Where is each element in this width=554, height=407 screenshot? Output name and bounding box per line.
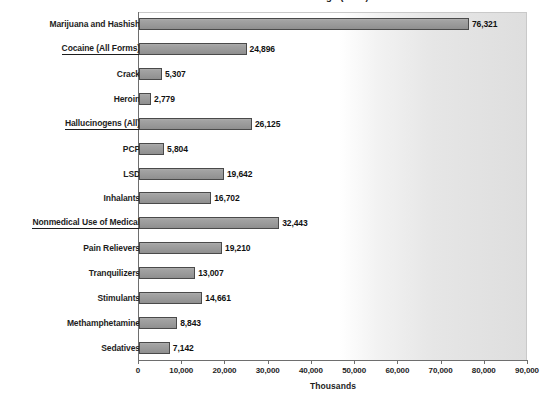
bar-value-label: 32,443	[282, 218, 307, 228]
bar-container: 7,142	[139, 342, 194, 354]
bar	[139, 143, 164, 155]
category-label: Nonmedical Use of Medical	[32, 217, 140, 229]
category-label: Pain Relievers	[83, 243, 140, 253]
bar-row: Crack5,307	[0, 62, 554, 87]
bar-value-label: 13,007	[198, 268, 223, 278]
bar-row: Methamphetamine8,843	[0, 310, 554, 335]
bar-container: 24,896	[139, 43, 275, 55]
x-axis-tick-label: 10,000	[169, 366, 193, 375]
x-axis-tick-label: 20,000	[213, 366, 237, 375]
bar-row: Pain Relievers19,210	[0, 236, 554, 261]
bar	[139, 267, 195, 279]
bar	[139, 118, 252, 130]
bar	[139, 18, 469, 30]
bar-value-label: 5,804	[167, 144, 188, 154]
bar-container: 32,443	[139, 217, 308, 229]
bar-row: Inhalants16,702	[0, 186, 554, 211]
category-label: Cocaine (All Forms)	[62, 43, 140, 55]
x-axis-tick	[527, 361, 528, 364]
bar-value-label: 26,125	[255, 119, 280, 129]
bar-value-label: 14,661	[205, 293, 230, 303]
category-label: Crack	[117, 69, 140, 79]
x-axis-tick	[224, 361, 225, 364]
bar-value-label: 16,702	[214, 193, 239, 203]
category-label: LSD	[123, 169, 140, 179]
bar-row: Cocaine (All Forms)24,896	[0, 37, 554, 62]
category-label: Methamphetamine	[67, 318, 140, 328]
bar-value-label: 5,307	[165, 69, 186, 79]
x-axis-tick-label: 30,000	[256, 366, 280, 375]
bar-container: 16,702	[139, 192, 240, 204]
x-axis-tick-label: 80,000	[472, 366, 496, 375]
bar-container: 26,125	[139, 118, 280, 130]
x-axis-tick-label: 40,000	[299, 366, 323, 375]
x-axis-tick-label: 0	[136, 366, 140, 375]
bar-row: Marijuana and Hashish76,321	[0, 12, 554, 37]
x-axis-tick	[311, 361, 312, 364]
bar-value-label: 19,642	[227, 169, 252, 179]
category-label: Marijuana and Hashish	[50, 19, 140, 29]
x-axis-tick-labels: 010,00020,00030,00040,00050,00060,00070,…	[138, 366, 528, 378]
category-label: Tranquilizers	[89, 268, 140, 278]
x-axis-tick	[484, 361, 485, 364]
x-axis-tick	[441, 361, 442, 364]
category-label: Stimulants	[98, 293, 140, 303]
x-axis-tick	[354, 361, 355, 364]
bar	[139, 317, 177, 329]
x-axis-ticks	[138, 361, 528, 365]
bar-row: LSD19,642	[0, 161, 554, 186]
bar-value-label: 76,321	[472, 19, 497, 29]
category-label: PCP	[123, 144, 140, 154]
bar-row: Hallucinogens (All)26,125	[0, 111, 554, 136]
bar	[139, 217, 279, 229]
bar-row: Tranquilizers13,007	[0, 261, 554, 286]
bar-rows: Marijuana and Hashish76,321Cocaine (All …	[0, 12, 554, 360]
bar	[139, 168, 224, 180]
bar-container: 19,642	[139, 168, 252, 180]
bar-value-label: 8,843	[180, 318, 201, 328]
x-axis-tick	[138, 361, 139, 364]
x-axis-tick-label: 70,000	[429, 366, 453, 375]
x-axis-tick-label: 60,000	[385, 366, 409, 375]
bar-container: 19,210	[139, 242, 250, 254]
bar	[139, 93, 151, 105]
category-label: Sedatives	[101, 343, 140, 353]
bar	[139, 68, 162, 80]
bar	[139, 192, 211, 204]
bar-value-label: 2,779	[154, 94, 175, 104]
bar-row: PCP5,804	[0, 136, 554, 161]
bar-row: Sedatives7,142	[0, 335, 554, 360]
bar-container: 13,007	[139, 267, 224, 279]
category-label: Hallucinogens (All)	[65, 118, 140, 130]
bar-row: Heroin2,779	[0, 87, 554, 112]
x-axis-tick	[181, 361, 182, 364]
bar-row: Stimulants14,661	[0, 285, 554, 310]
x-axis-tick-label: 50,000	[342, 366, 366, 375]
bar-value-label: 24,896	[250, 44, 275, 54]
x-axis-title: Thousands	[138, 381, 528, 391]
bar-row: Nonmedical Use of Medical32,443	[0, 211, 554, 236]
bar-chart: Past Year Use of Selected Drugs (2002) M…	[0, 0, 554, 407]
bar	[139, 43, 247, 55]
bar-container: 76,321	[139, 18, 497, 30]
bar	[139, 292, 202, 304]
x-axis-tick-label: 90,000	[515, 366, 539, 375]
bar-container: 14,661	[139, 292, 231, 304]
bar-container: 2,779	[139, 93, 175, 105]
bar-container: 8,843	[139, 317, 201, 329]
bar-container: 5,307	[139, 68, 186, 80]
bar	[139, 342, 170, 354]
bar-value-label: 7,142	[173, 343, 194, 353]
bar	[139, 242, 222, 254]
x-axis-tick	[397, 361, 398, 364]
bar-value-label: 19,210	[225, 243, 250, 253]
bar-container: 5,804	[139, 143, 188, 155]
category-label: Inhalants	[104, 193, 140, 203]
x-axis-tick	[268, 361, 269, 364]
category-label: Heroin	[114, 94, 140, 104]
chart-title: Past Year Use of Selected Drugs (2002)	[0, 0, 554, 2]
